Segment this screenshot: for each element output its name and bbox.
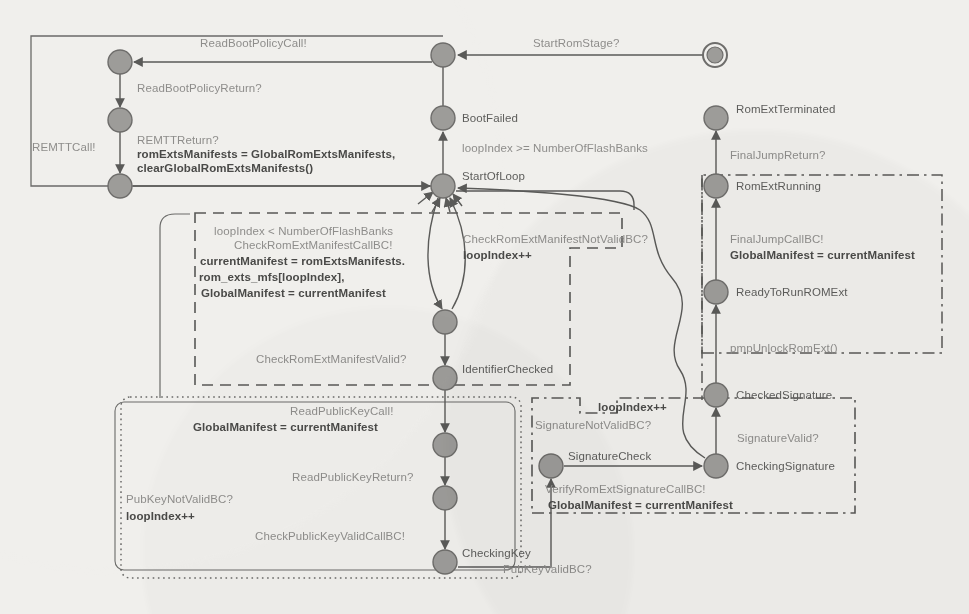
state-node-manifestchecked[interactable] [433,310,457,334]
edge-label-pubkey-notvalid: PubKeyNotValidBC? [126,492,233,506]
state-node-romstage[interactable] [431,43,455,67]
edge-label-remt-call: REMTTCall! [32,140,96,154]
state-label-label-identifierchecked: IdentifierChecked [462,362,553,376]
edge-label-read-pubkey-call: ReadPublicKeyCall! [290,404,393,418]
state-node-checkedsignature[interactable] [704,383,728,407]
edge-label-loop-index-pp-3: loopIndex++ [598,400,667,414]
edge-label-pmp-unlock: pmpUnlockRomExt() [730,341,838,355]
state-node-romextrunning[interactable] [704,174,728,198]
state-label-label-bootfailed: BootFailed [462,111,518,125]
edge-label-loop-guard: loopIndex < NumberOfFlashBanks [214,224,393,238]
edge-label-read-pubkey-return: ReadPublicKeyReturn? [292,470,414,484]
edge-label-start-rom-stage: StartRomStage? [533,36,619,50]
edge-check-manifest-call [428,198,442,309]
state-machine-diagram: StartRomStage?ReadBootPolicyCall!ReadBoo… [0,0,969,614]
edge-label-check-manifest-call: CheckRomExtManifestCallBC! [234,238,393,252]
state-node-pubkeyreturned[interactable] [433,486,457,510]
edge-cluster-d [453,194,462,206]
edge-label-read-boot-policy-call: ReadBootPolicyCall! [200,36,307,50]
state-node-initial[interactable] [703,43,727,67]
state-node-pubkeyread[interactable] [433,433,457,457]
edge-label-final-jump-call: FinalJumpCallBC! [730,232,824,246]
edge-label-remt-return: REMTTReturn? [137,133,219,147]
edge-label-rom-exts-mfs: rom_exts_mfs[loopIndex], [199,270,345,284]
state-label-label-checkingkey: CheckingKey [462,546,531,560]
state-node-readytorunromext[interactable] [704,280,728,304]
state-label-label-romextterminated: RomExtTerminated [736,102,835,116]
state-node-signaturecheck[interactable] [539,454,563,478]
edge-cluster-a [418,192,433,204]
edge-label-boot-failed-guard: loopIndex >= NumberOfFlashBanks [462,141,648,155]
edge-label-global-manifest-2: GlobalManifest = currentManifest [193,420,378,434]
state-label-label-checkedsignature: CheckedSignature [736,388,832,402]
edge-label-current-manifest: currentManifest = romExtsManifests. [200,254,405,268]
edge-cluster-c [446,198,450,212]
edge-label-clear-global: clearGlobalRomExtsManifests() [137,161,313,175]
state-node-startofloop[interactable] [431,174,455,198]
state-label-label-readytorun: ReadyToRunROMExt [736,285,848,299]
state-node-romextterminated[interactable] [704,106,728,130]
edge-label-rom-exts-manifests: romExtsManifests = GlobalRomExtsManifest… [137,147,395,161]
state-node-bootpolicy[interactable] [108,50,132,74]
edge-label-verify-signature-call: VerifyRomExtSignatureCallBC! [545,482,706,496]
edge-label-global-manifest-4: GlobalManifest = currentManifest [548,498,733,512]
edge-label-global-manifest-3: GlobalManifest = currentManifest [730,248,915,262]
state-node-bootpolicyread[interactable] [108,108,132,132]
state-node-identifierchecked[interactable] [433,366,457,390]
state-node-bootfailed[interactable] [431,106,455,130]
edge-label-check-pubkey-valid: CheckPublicKeyValidCallBC! [255,529,405,543]
edge-label-signature-valid: SignatureValid? [737,431,819,445]
edge-label-global-manifest-1: GlobalManifest = currentManifest [201,286,386,300]
edge-cluster-b [432,198,440,212]
edge-label-read-boot-policy-return: ReadBootPolicyReturn? [137,81,262,95]
state-node-remtdone[interactable] [108,174,132,198]
state-label-label-startofloop: StartOfLoop [462,169,525,183]
region-manifest-connector [160,214,190,398]
state-node-checkingsignature[interactable] [704,454,728,478]
state-label-label-signaturecheck: SignatureCheck [568,449,651,463]
edge-label-final-jump-return: FinalJumpReturn? [730,148,826,162]
edge-label-check-manifest-notvalid: CheckRomExtManifestNotValidBC? [463,232,648,246]
edge-label-check-manifest-valid: CheckRomExtManifestValid? [256,352,407,366]
edge-label-pubkey-valid: PubKeyValidBC? [503,562,592,576]
edge-label-loop-index-pp-1: loopIndex++ [463,248,532,262]
state-node-checkingkey[interactable] [433,550,457,574]
edge-label-loop-index-pp-2: loopIndex++ [126,509,195,523]
state-label-label-checkingsignature: CheckingSignature [736,459,835,473]
region-romext [702,175,942,353]
edge-label-signature-notvalid: SignatureNotValidBC? [535,418,651,432]
state-label-label-romextrunning: RomExtRunning [736,179,821,193]
